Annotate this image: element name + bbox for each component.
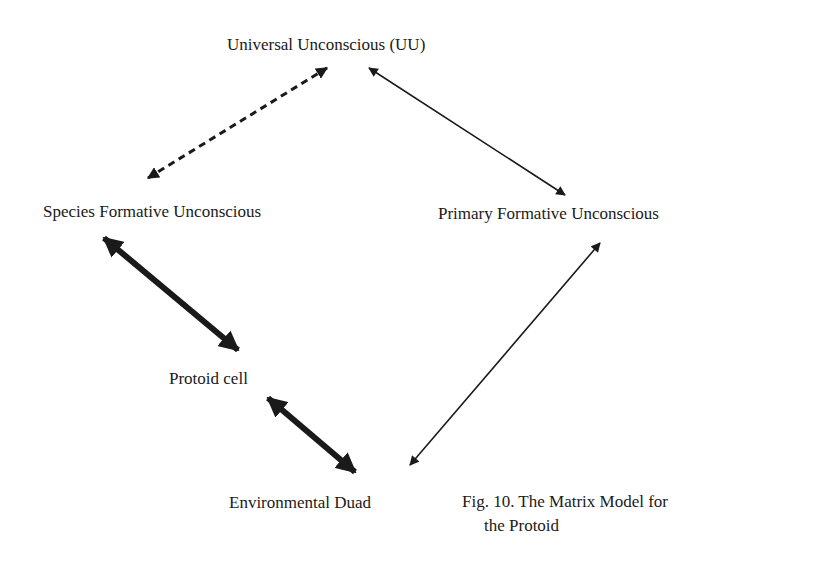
arrows-layer (0, 0, 821, 571)
arrow-uu-pfu (369, 68, 565, 195)
arrow-sfu-protoid-thick (104, 238, 238, 350)
arrow-protoid-env-thick (268, 398, 355, 472)
arrow-pfu-env (410, 243, 600, 465)
arrow-uu-sfu-dashed (148, 68, 327, 178)
